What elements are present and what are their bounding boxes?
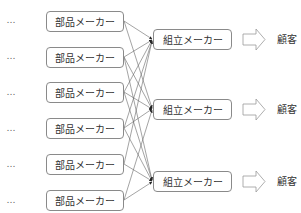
parts-maker-box: 部品メーカー <box>46 47 124 68</box>
parts-maker-box: 部品メーカー <box>46 82 124 103</box>
assembler-box: 組立メーカー <box>153 171 232 192</box>
arrow-right-icon <box>243 171 265 192</box>
arrow-right-icon <box>243 29 265 50</box>
ellipsis: … <box>4 195 18 205</box>
ellipsis: … <box>4 87 18 97</box>
parts-maker-box: 部品メーカー <box>46 118 124 139</box>
flow-arrows <box>243 29 265 192</box>
connection-lines <box>0 0 301 213</box>
arrow-right-icon <box>243 99 265 120</box>
customer-label: 顧客 <box>277 176 297 188</box>
customer-label: 顧客 <box>277 104 297 116</box>
parts-maker-box: 部品メーカー <box>46 190 124 211</box>
ellipsis: … <box>4 15 18 25</box>
assembler-box: 組立メーカー <box>153 99 232 120</box>
parts-maker-box: 部品メーカー <box>46 11 124 32</box>
assembler-box: 組立メーカー <box>153 29 232 50</box>
ellipsis: … <box>4 51 18 61</box>
customer-label: 顧客 <box>277 34 297 46</box>
parts-maker-box: 部品メーカー <box>46 154 124 175</box>
ellipsis: … <box>4 159 18 169</box>
ellipsis: … <box>4 123 18 133</box>
